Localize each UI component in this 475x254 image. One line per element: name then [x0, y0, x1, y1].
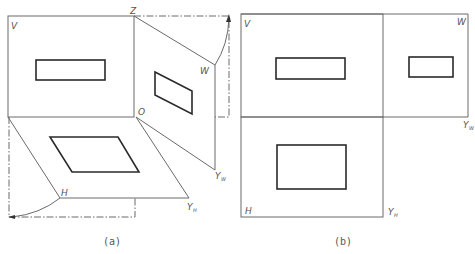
w-plane-a — [134, 16, 215, 170]
v-projection-a — [36, 60, 105, 80]
label-h-a: H — [61, 188, 68, 198]
label-v-b: V — [244, 19, 251, 29]
label-yw-sub-b: W — [469, 125, 475, 131]
label-yh-sub-a: H — [193, 207, 197, 213]
h-rotation-arrow-icon — [8, 215, 15, 219]
v-projection-b — [276, 58, 345, 79]
w-projection-b — [409, 57, 453, 77]
w-projection-a — [155, 72, 192, 114]
v-plane-b — [241, 14, 383, 117]
h-rotation-guide — [9, 117, 135, 217]
w-rotation-arc — [215, 18, 229, 65]
caption-a: (a) — [103, 236, 121, 247]
label-w-b: W — [457, 17, 467, 27]
h-plane-a — [8, 117, 189, 198]
label-v-a: V — [11, 21, 18, 31]
h-rotation-arc — [12, 198, 60, 217]
label-z-a: Z — [129, 6, 137, 16]
label-w-a: W — [200, 66, 210, 76]
w-plane-b — [241, 14, 468, 117]
caption-b: (b) — [334, 236, 352, 247]
label-yh-sub-b: H — [394, 212, 398, 218]
label-o-a: O — [138, 107, 145, 117]
h-projection-a — [50, 137, 139, 172]
projection-diagram: V Z W O H Y W Y H (a) V W Y W H Y H (b) — [0, 0, 475, 254]
figure-a: V Z W O H Y W Y H (a) — [8, 6, 231, 247]
h-projection-b — [277, 145, 346, 189]
v-plane-a — [8, 16, 134, 117]
label-h-b: H — [245, 206, 252, 216]
h-plane-b — [241, 117, 383, 217]
figure-b: V W Y W H Y H (b) — [241, 14, 475, 247]
w-rotation-arrow-icon — [226, 14, 231, 22]
label-yw-sub-a: W — [221, 176, 227, 182]
